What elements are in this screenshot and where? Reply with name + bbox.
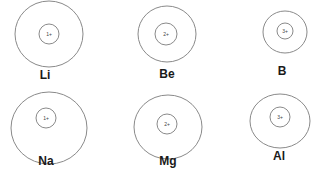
charge-label: 2+: [164, 121, 170, 127]
outer-shell: [250, 94, 310, 148]
ion-li: 1+: [15, 1, 83, 67]
outer-shell: [134, 95, 202, 159]
charge-label: 1+: [46, 31, 52, 37]
element-label-li: Li: [40, 69, 51, 81]
charge-label: 3+: [282, 28, 288, 34]
element-label-b: B: [278, 65, 287, 77]
ion-mg: 2+: [134, 95, 202, 159]
element-label-be: Be: [159, 68, 174, 80]
ion-be: 2+: [138, 6, 196, 62]
element-label-mg: Mg: [159, 155, 176, 167]
charge-label: 1+: [43, 115, 49, 121]
charge-label: 2+: [163, 31, 169, 37]
element-label-al: Al: [273, 150, 285, 162]
element-label-na: Na: [38, 155, 53, 167]
charge-label: 3+: [277, 114, 283, 120]
ion-al: 3+: [250, 94, 310, 148]
ion-b: 3+: [263, 11, 307, 53]
